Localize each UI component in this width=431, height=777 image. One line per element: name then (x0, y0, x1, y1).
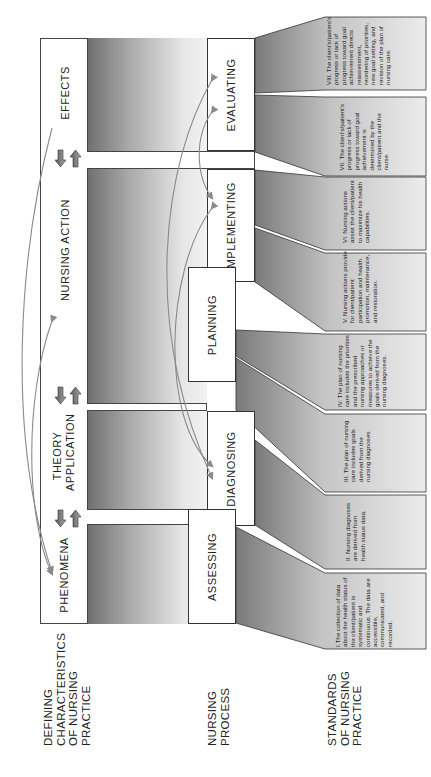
arrow-implementing-to-diagnosing (175, 208, 212, 466)
standard-viii: VIII. The client's/patient's progress or… (325, 15, 425, 85)
standard-ii: II. Nursing diagnoses are derived from h… (344, 499, 398, 561)
standard-i: I.The collection of data about the healt… (334, 575, 408, 647)
standard-vii: VII. The client's/patient's progress or … (338, 101, 413, 171)
standard-vi: VI. Nursing actions assist the client/pa… (341, 179, 403, 243)
standard-iv: IV. The plan of nursing care includes th… (336, 335, 412, 407)
row-label-defining-characteristics: DEFINING CHARACTERISTICS OF NURSING PRAC… (42, 633, 92, 746)
standard-v: V. Nursing actions provide for client/pa… (341, 251, 411, 323)
row-label-standards: STANDARDS OF NURSING PRACTICE (326, 671, 364, 746)
arrow-effects-to-phenomena (22, 128, 52, 572)
standard-iii: III. The plan of nursing care includes g… (342, 418, 402, 482)
arrow-implementing-to-evaluating (199, 112, 212, 198)
arrow-diagnosing-to-evaluating (167, 80, 212, 478)
row-label-nursing-process: NURSING PROCESS (206, 688, 231, 746)
